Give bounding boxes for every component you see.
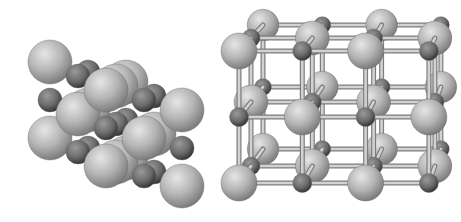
large-ion-sphere [411, 99, 447, 135]
ball-and-stick-model [0, 0, 461, 222]
large-ion-sphere [348, 33, 384, 69]
small-ion-sphere [293, 42, 312, 61]
small-ion-sphere [419, 174, 438, 193]
large-ion-sphere [284, 99, 320, 135]
small-ion-sphere [419, 42, 438, 61]
large-ion-sphere [221, 33, 257, 69]
large-ion-sphere [348, 165, 384, 201]
small-ion-sphere [293, 174, 312, 193]
small-ion-sphere [356, 108, 375, 127]
small-ion-sphere [230, 108, 249, 127]
large-ion-sphere [221, 165, 257, 201]
figure [0, 0, 461, 222]
